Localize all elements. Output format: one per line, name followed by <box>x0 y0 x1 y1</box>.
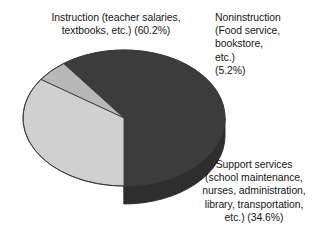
pie-chart-figure: Instruction (teacher salaries, textbooks… <box>0 0 331 241</box>
pie-label-support-services: Support services (school maintenance, nu… <box>178 158 330 224</box>
pie-label-instruction: Instruction (teacher salaries, textbooks… <box>18 11 214 37</box>
pie-label-noninstruction: Noninstruction (Food service, bookstore,… <box>215 11 327 77</box>
